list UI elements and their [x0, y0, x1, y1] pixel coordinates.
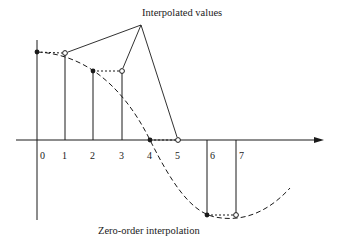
sample-marker-2	[91, 69, 96, 74]
continuous-signal-curve	[37, 52, 290, 218]
tick-label-7: 7	[239, 150, 244, 161]
sample-marker-0	[35, 50, 40, 55]
tick-label-2: 2	[90, 150, 95, 161]
interp-marker-5	[176, 138, 181, 143]
interpolated-values-label: Interpolated values	[142, 7, 222, 18]
interp-marker-7	[234, 213, 239, 218]
tick-label-4: 4	[147, 150, 152, 161]
interp-marker-3	[120, 69, 125, 74]
zero-order-interpolation-label: Zero-order interpolation	[98, 225, 200, 236]
interp-marker-1	[63, 51, 68, 56]
tick-label-0: 0	[40, 150, 45, 161]
tick-label-1: 1	[62, 150, 67, 161]
tick-label-5: 5	[175, 150, 180, 161]
sample-marker-6	[205, 213, 210, 218]
sample-marker-4	[148, 138, 153, 143]
tick-label-6: 6	[210, 150, 215, 161]
axis-arrow-icon	[314, 137, 324, 143]
hold-segments	[37, 52, 233, 215]
tick-label-3: 3	[119, 150, 124, 161]
stems	[65, 53, 236, 215]
zero-order-interpolation-diagram: 0 1 2 3 4 5 6 7 Interpolated values Zero…	[0, 0, 338, 243]
